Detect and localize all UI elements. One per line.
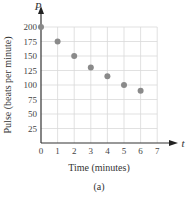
y-tick-label: 200 bbox=[24, 22, 38, 32]
x-axis-variable: t bbox=[181, 137, 185, 149]
y-tick-label: 150 bbox=[24, 51, 38, 61]
x-tick-label: 1 bbox=[55, 146, 60, 156]
x-tick-labels: 01234567 bbox=[39, 146, 160, 156]
y-axis-label: Pulse (beats per minute) bbox=[2, 37, 14, 134]
x-tick-label: 0 bbox=[39, 146, 44, 156]
x-axis-arrow-icon bbox=[169, 140, 178, 146]
figure-caption: (a) bbox=[93, 181, 104, 193]
y-tick-labels: 255075100125150175200 bbox=[24, 22, 38, 134]
y-tick-label: 125 bbox=[24, 66, 38, 76]
x-tick-label: 6 bbox=[138, 146, 143, 156]
x-tick-label: 7 bbox=[155, 146, 160, 156]
y-axis-variable: P bbox=[34, 0, 42, 12]
y-tick-label: 100 bbox=[24, 80, 38, 90]
data-point bbox=[55, 39, 61, 45]
x-tick-label: 3 bbox=[89, 146, 94, 156]
y-tick-label: 50 bbox=[28, 109, 38, 119]
scatter-chart: 255075100125150175200 01234567 P t Time … bbox=[0, 0, 187, 198]
data-point bbox=[38, 24, 44, 30]
data-point bbox=[138, 88, 144, 94]
data-point bbox=[121, 82, 127, 88]
y-tick-label: 75 bbox=[28, 95, 38, 105]
data-point bbox=[71, 53, 77, 59]
data-point bbox=[104, 73, 110, 79]
x-tick-label: 4 bbox=[105, 146, 110, 156]
grid-lines bbox=[41, 27, 157, 143]
x-tick-label: 5 bbox=[122, 146, 127, 156]
data-point bbox=[88, 65, 94, 71]
x-tick-label: 2 bbox=[72, 146, 77, 156]
y-tick-label: 25 bbox=[28, 124, 38, 134]
y-tick-label: 175 bbox=[24, 37, 38, 47]
x-axis-label: Time (minutes) bbox=[68, 162, 130, 174]
